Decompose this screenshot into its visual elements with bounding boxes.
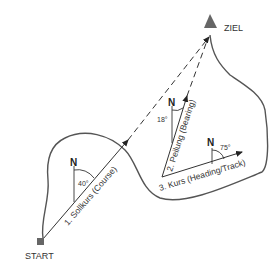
angle-arc-heading: [212, 150, 224, 159]
north-label-heading: N: [207, 137, 214, 148]
heading-angle: 75°: [220, 144, 231, 151]
start-marker-icon: [37, 238, 44, 245]
north-label-bearing: N: [168, 97, 175, 108]
course-dashed-line: [128, 37, 209, 140]
north-label-course: N: [70, 157, 77, 168]
goal-label: ZIEL: [224, 23, 243, 33]
bearing-dashed-line: [187, 38, 208, 96]
course-angle: 40°: [78, 180, 89, 187]
angle-arc-bearing: [172, 108, 183, 111]
goal-marker-icon: [204, 14, 217, 28]
course-line: [43, 140, 128, 239]
navigation-diagram: START ZIEL N N N 40° 18° 75° 1. Sollkurs…: [0, 0, 277, 266]
bearing-angle: 18°: [157, 116, 168, 123]
start-label: START: [25, 251, 54, 261]
angle-arc-course: [74, 170, 94, 178]
course-label: 1. Sollkurs (Course): [62, 164, 119, 227]
